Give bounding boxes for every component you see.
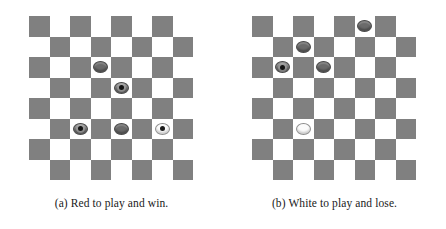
dark-king-piece bbox=[114, 82, 129, 94]
dark-man-piece bbox=[316, 61, 331, 73]
panel-a: (a) Red to play and win. bbox=[0, 0, 223, 229]
square-b-r7c1 bbox=[273, 160, 294, 181]
square-b-r3c6 bbox=[375, 78, 396, 99]
square-b-r4c2 bbox=[293, 98, 314, 119]
square-b-r5c3 bbox=[314, 119, 335, 140]
square-a-r3c0 bbox=[29, 78, 50, 99]
square-a-r2c2 bbox=[70, 57, 91, 78]
square-b-r7c3 bbox=[314, 160, 335, 181]
checkerboard-b bbox=[252, 16, 416, 180]
square-b-r2c7 bbox=[396, 57, 417, 78]
dark-king-piece bbox=[73, 123, 88, 135]
square-b-r5c7 bbox=[396, 119, 417, 140]
square-a-r1c7 bbox=[173, 37, 194, 58]
square-a-r2c1 bbox=[50, 57, 71, 78]
square-a-r4c3 bbox=[91, 98, 112, 119]
square-a-r3c4 bbox=[111, 78, 132, 99]
square-a-r3c7 bbox=[173, 78, 194, 99]
square-a-r4c2 bbox=[70, 98, 91, 119]
square-a-r1c2 bbox=[70, 37, 91, 58]
square-a-r7c1 bbox=[50, 160, 71, 181]
panel-b: (b) White to play and lose. bbox=[223, 0, 446, 229]
square-b-r0c2 bbox=[293, 16, 314, 37]
square-b-r2c6 bbox=[375, 57, 396, 78]
square-b-r1c3 bbox=[314, 37, 335, 58]
square-a-r4c7 bbox=[173, 98, 194, 119]
square-b-r5c5 bbox=[355, 119, 376, 140]
square-a-r0c6 bbox=[152, 16, 173, 37]
square-a-r7c4 bbox=[111, 160, 132, 181]
square-b-r4c4 bbox=[334, 98, 355, 119]
square-b-r1c6 bbox=[375, 37, 396, 58]
square-b-r3c0 bbox=[252, 78, 273, 99]
dark-king-piece bbox=[275, 61, 290, 73]
checkers-figure: (a) Red to play and win. (b) White to pl… bbox=[0, 0, 446, 229]
square-a-r5c6 bbox=[152, 119, 173, 140]
square-b-r5c4 bbox=[334, 119, 355, 140]
square-a-r1c6 bbox=[152, 37, 173, 58]
square-a-r6c5 bbox=[132, 139, 153, 160]
square-b-r1c1 bbox=[273, 37, 294, 58]
square-a-r4c6 bbox=[152, 98, 173, 119]
square-b-r6c0 bbox=[252, 139, 273, 160]
square-b-r1c2 bbox=[293, 37, 314, 58]
square-b-r4c7 bbox=[396, 98, 417, 119]
dark-man-piece bbox=[357, 20, 372, 32]
square-a-r3c3 bbox=[91, 78, 112, 99]
square-a-r7c3 bbox=[91, 160, 112, 181]
square-a-r5c7 bbox=[173, 119, 194, 140]
square-a-r6c4 bbox=[111, 139, 132, 160]
square-a-r1c0 bbox=[29, 37, 50, 58]
square-a-r6c7 bbox=[173, 139, 194, 160]
king-crown-icon bbox=[78, 126, 83, 131]
square-b-r1c0 bbox=[252, 37, 273, 58]
square-b-r2c3 bbox=[314, 57, 335, 78]
square-a-r7c0 bbox=[29, 160, 50, 181]
square-a-r6c2 bbox=[70, 139, 91, 160]
square-a-r4c0 bbox=[29, 98, 50, 119]
square-a-r1c3 bbox=[91, 37, 112, 58]
square-b-r6c3 bbox=[314, 139, 335, 160]
square-b-r7c5 bbox=[355, 160, 376, 181]
square-b-r1c4 bbox=[334, 37, 355, 58]
square-b-r6c1 bbox=[273, 139, 294, 160]
caption-b: (b) White to play and lose. bbox=[223, 197, 446, 209]
square-b-r0c6 bbox=[375, 16, 396, 37]
square-b-r5c2 bbox=[293, 119, 314, 140]
square-b-r4c5 bbox=[355, 98, 376, 119]
caption-a: (a) Red to play and win. bbox=[0, 197, 223, 209]
white-man-piece bbox=[296, 123, 311, 135]
square-a-r2c4 bbox=[111, 57, 132, 78]
square-b-r5c1 bbox=[273, 119, 294, 140]
square-b-r2c0 bbox=[252, 57, 273, 78]
square-b-r4c3 bbox=[314, 98, 335, 119]
square-a-r4c4 bbox=[111, 98, 132, 119]
square-a-r6c3 bbox=[91, 139, 112, 160]
square-b-r2c5 bbox=[355, 57, 376, 78]
square-a-r4c5 bbox=[132, 98, 153, 119]
king-crown-icon bbox=[119, 85, 124, 90]
square-a-r1c5 bbox=[132, 37, 153, 58]
square-b-r2c1 bbox=[273, 57, 294, 78]
square-b-r0c5 bbox=[355, 16, 376, 37]
square-a-r1c1 bbox=[50, 37, 71, 58]
square-b-r4c0 bbox=[252, 98, 273, 119]
square-b-r6c5 bbox=[355, 139, 376, 160]
square-b-r3c7 bbox=[396, 78, 417, 99]
square-b-r3c2 bbox=[293, 78, 314, 99]
square-b-r0c1 bbox=[273, 16, 294, 37]
square-b-r0c4 bbox=[334, 16, 355, 37]
square-a-r3c5 bbox=[132, 78, 153, 99]
square-a-r1c4 bbox=[111, 37, 132, 58]
square-b-r7c7 bbox=[396, 160, 417, 181]
square-b-r2c2 bbox=[293, 57, 314, 78]
square-a-r4c1 bbox=[50, 98, 71, 119]
square-b-r7c4 bbox=[334, 160, 355, 181]
square-b-r0c7 bbox=[396, 16, 417, 37]
square-a-r6c0 bbox=[29, 139, 50, 160]
dark-man-piece bbox=[93, 61, 108, 73]
square-a-r2c3 bbox=[91, 57, 112, 78]
square-b-r3c5 bbox=[355, 78, 376, 99]
square-b-r6c2 bbox=[293, 139, 314, 160]
square-b-r0c0 bbox=[252, 16, 273, 37]
